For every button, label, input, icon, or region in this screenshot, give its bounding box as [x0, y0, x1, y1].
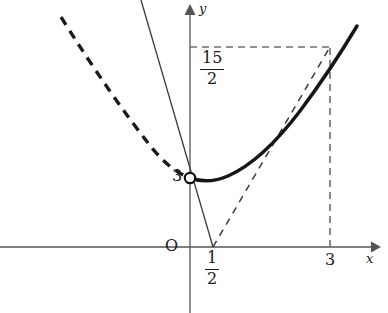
figure-root: y x O 3 3 1 2 15 2: [0, 0, 388, 313]
x-tick-label-one-half: 1 2: [205, 250, 219, 288]
chord-dashed: [213, 47, 330, 247]
parabola-dashed-branch: [61, 17, 190, 178]
x-tick-label-three: 3: [325, 252, 335, 268]
x-axis-label: x: [366, 252, 373, 265]
y-value-label-fifteen-halves: 15 2: [200, 50, 224, 88]
fifteen-halves-numerator: 15: [200, 50, 224, 67]
y-axis-label: y: [199, 2, 206, 15]
y-axis: [185, 4, 196, 313]
tangent-line: [141, 0, 213, 247]
one-half-numerator: 1: [205, 250, 219, 267]
open-circle-marker: [185, 173, 195, 183]
y-intercept-label: 3: [172, 168, 182, 184]
one-half-denominator: 2: [205, 271, 219, 288]
y-axis-arrow: [185, 4, 196, 15]
fifteen-halves-denominator: 2: [200, 71, 224, 88]
origin-label: O: [165, 238, 178, 254]
